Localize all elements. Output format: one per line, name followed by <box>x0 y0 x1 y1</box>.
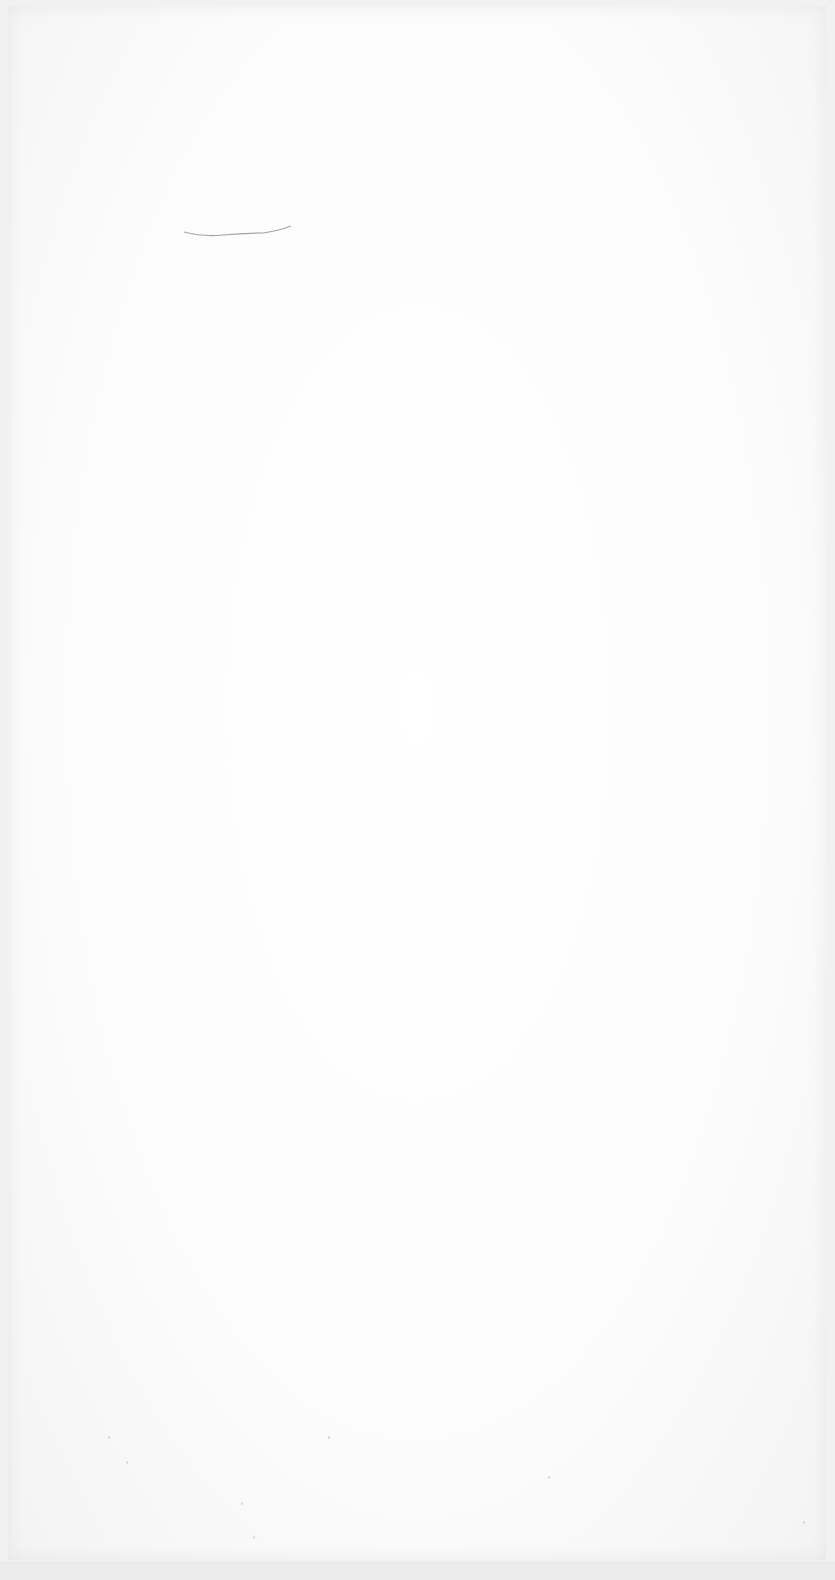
paper-speck <box>803 1521 805 1524</box>
paper-speck <box>253 1536 255 1539</box>
paper-speck <box>108 1436 110 1439</box>
paper-speck <box>328 1436 330 1439</box>
paper-speck <box>548 1476 550 1479</box>
paper-speck <box>241 1502 243 1505</box>
paper-speck <box>126 1461 128 1464</box>
blank-page <box>8 6 826 1560</box>
scan-edge <box>0 1561 835 1580</box>
pencil-stroke-mark <box>183 222 293 242</box>
